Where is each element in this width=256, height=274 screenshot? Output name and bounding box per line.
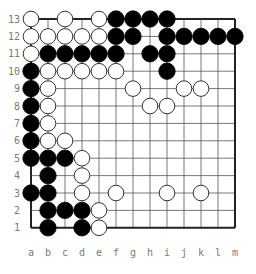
column-label: j [181, 247, 187, 258]
white-stone [159, 185, 175, 201]
black-stone [23, 133, 39, 149]
white-stone [40, 133, 56, 149]
white-stone [23, 29, 39, 45]
black-stone [210, 28, 226, 44]
black-stone [40, 220, 56, 236]
white-stone [23, 11, 39, 27]
white-stone [108, 63, 124, 79]
black-stone [159, 63, 175, 79]
column-label: i [164, 247, 170, 258]
white-stone [74, 63, 90, 79]
black-stone [23, 98, 39, 114]
black-stone [142, 46, 158, 62]
row-label: 4 [14, 170, 20, 181]
white-stone [193, 81, 209, 97]
white-stone [142, 98, 158, 114]
white-stone [159, 98, 175, 114]
white-stone [40, 63, 56, 79]
black-stone [125, 28, 141, 44]
black-stone [108, 11, 124, 27]
white-stone [108, 185, 124, 201]
column-label: f [113, 247, 119, 258]
white-stone [57, 63, 73, 79]
row-label: 2 [14, 205, 20, 216]
black-stone [57, 202, 73, 218]
black-stone [227, 28, 243, 44]
column-label: c [62, 247, 68, 258]
black-stone [74, 202, 90, 218]
black-stone [74, 46, 90, 62]
white-stone [57, 29, 73, 45]
column-label: b [45, 247, 51, 258]
white-stone [40, 81, 56, 97]
black-stone [40, 167, 56, 183]
black-stone [40, 185, 56, 201]
black-stone [23, 185, 39, 201]
white-stone [91, 220, 107, 236]
black-stone [193, 28, 209, 44]
row-label: 8 [14, 101, 20, 112]
column-label: d [79, 247, 85, 258]
white-stone [40, 29, 56, 45]
black-stone [108, 46, 124, 62]
black-stone [40, 46, 56, 62]
white-stone [91, 11, 107, 27]
white-stone [57, 133, 73, 149]
black-stone [91, 46, 107, 62]
column-label: k [198, 247, 204, 258]
row-label: 1 [14, 222, 20, 233]
white-stone [91, 29, 107, 45]
row-label: 12 [8, 31, 20, 42]
white-stone [74, 150, 90, 166]
black-stone [74, 220, 90, 236]
white-stone [40, 98, 56, 114]
black-stone [142, 11, 158, 27]
row-label: 3 [14, 188, 20, 199]
white-stone [74, 168, 90, 184]
column-label: e [96, 247, 102, 258]
white-stone [23, 46, 39, 62]
black-stone [23, 63, 39, 79]
row-label: 7 [14, 118, 20, 129]
black-stone [23, 150, 39, 166]
white-stone [91, 63, 107, 79]
black-stone [108, 28, 124, 44]
row-label: 13 [8, 14, 20, 25]
black-stone [159, 28, 175, 44]
column-label: l [215, 247, 221, 258]
white-stone [193, 185, 209, 201]
row-label: 6 [14, 135, 20, 146]
black-stone [125, 11, 141, 27]
black-stone [159, 46, 175, 62]
row-label: 11 [8, 48, 20, 59]
white-stone [91, 203, 107, 219]
row-label: 10 [8, 66, 20, 77]
white-stone [125, 81, 141, 97]
black-stone [176, 28, 192, 44]
row-label: 5 [14, 153, 20, 164]
column-label: h [147, 247, 153, 258]
black-stone [23, 80, 39, 96]
white-stone [40, 116, 56, 132]
black-stone [159, 11, 175, 27]
white-stone [176, 81, 192, 97]
black-stone [57, 150, 73, 166]
black-stone [40, 202, 56, 218]
white-stone [74, 185, 90, 201]
white-stone [57, 11, 73, 27]
row-label: 9 [14, 83, 20, 94]
go-board[interactable]: abcdefghijklm13121110987654321 [0, 0, 256, 274]
black-stone [57, 46, 73, 62]
black-stone [23, 115, 39, 131]
black-stone [40, 150, 56, 166]
white-stone [74, 29, 90, 45]
column-label: a [28, 247, 34, 258]
column-label: m [232, 247, 238, 258]
column-label: g [130, 247, 136, 258]
